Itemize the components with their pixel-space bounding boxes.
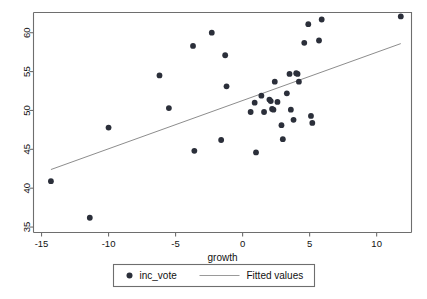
data-point-marker bbox=[224, 83, 230, 89]
plot-frame-outer bbox=[34, 13, 412, 233]
legend-label-inc-vote: inc_vote bbox=[140, 270, 178, 281]
data-point-marker bbox=[309, 120, 315, 126]
data-point-marker bbox=[296, 79, 302, 85]
data-point-marker bbox=[253, 150, 259, 156]
x-axis-title: growth bbox=[207, 252, 237, 263]
data-point-marker bbox=[166, 105, 172, 111]
x-tick-label: 5 bbox=[307, 238, 312, 249]
data-point-marker bbox=[291, 117, 297, 123]
data-point-marker bbox=[258, 93, 264, 99]
data-point-marker bbox=[319, 17, 325, 23]
x-tick-label: 10 bbox=[371, 238, 382, 249]
legend-marker-inc-vote bbox=[127, 273, 133, 279]
data-point-marker bbox=[284, 90, 290, 96]
x-tick-label: -10 bbox=[102, 238, 116, 249]
scatter-plot-svg: 354045505560-15-10-50510growthinc_voteFi… bbox=[0, 0, 427, 299]
x-tick-label: 0 bbox=[240, 238, 245, 249]
data-point-marker bbox=[248, 109, 254, 115]
data-point-marker bbox=[157, 73, 163, 79]
data-point-marker bbox=[308, 113, 314, 119]
data-point-marker bbox=[279, 122, 285, 128]
y-tick-label: 35 bbox=[21, 222, 32, 233]
data-point-marker bbox=[288, 107, 294, 113]
fitted-values-line bbox=[51, 44, 401, 170]
x-tick-label: -15 bbox=[35, 238, 49, 249]
data-point-marker bbox=[301, 40, 307, 46]
x-tick-label: -5 bbox=[171, 238, 179, 249]
y-tick-label: 55 bbox=[21, 66, 32, 77]
data-point-marker bbox=[209, 30, 215, 36]
data-point-marker bbox=[316, 38, 322, 44]
data-point-marker bbox=[106, 125, 112, 131]
data-point-marker bbox=[271, 107, 277, 113]
data-point-marker bbox=[280, 136, 286, 142]
data-point-marker bbox=[87, 215, 93, 221]
y-tick-label: 60 bbox=[21, 27, 32, 38]
legend-label-fitted-values: Fitted values bbox=[247, 270, 304, 281]
data-point-marker bbox=[261, 109, 267, 115]
data-point-marker bbox=[305, 21, 311, 27]
data-point-marker bbox=[295, 71, 301, 77]
data-point-marker bbox=[218, 137, 224, 143]
data-point-marker bbox=[272, 79, 278, 85]
chart-canvas: 354045505560-15-10-50510growthinc_voteFi… bbox=[0, 0, 427, 299]
data-point-marker bbox=[190, 43, 196, 49]
y-tick-label: 45 bbox=[21, 144, 32, 155]
data-point-marker bbox=[48, 178, 54, 184]
data-point-marker bbox=[222, 52, 228, 58]
data-point-marker bbox=[252, 100, 258, 106]
data-point-marker bbox=[191, 148, 197, 154]
data-point-marker bbox=[268, 98, 274, 104]
y-tick-label: 50 bbox=[21, 105, 32, 116]
data-point-marker bbox=[398, 13, 404, 19]
y-tick-label: 40 bbox=[21, 183, 32, 194]
data-point-marker bbox=[287, 71, 293, 77]
data-point-marker bbox=[275, 99, 281, 105]
